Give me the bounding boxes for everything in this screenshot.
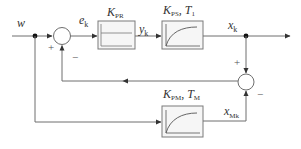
controller-output-label: yk — [138, 22, 148, 38]
model-label: KPM, TM — [162, 87, 201, 102]
summing-junction-2 — [238, 74, 254, 90]
model-output-label: xMk — [223, 104, 240, 120]
feedback-line — [62, 46, 238, 84]
input-label: w — [17, 16, 25, 30]
controller-label: KPR — [106, 5, 124, 20]
sum2-minus-sign: − — [257, 88, 263, 100]
controller-block — [98, 21, 135, 49]
summing-junction-1 — [54, 28, 71, 45]
sum1-plus-sign: + — [48, 41, 54, 53]
sum1-minus-sign: − — [72, 51, 78, 63]
process-output-label: xk — [227, 18, 237, 34]
error-label: ek — [79, 13, 88, 29]
sum2-plus-sign: + — [234, 56, 240, 68]
process-label: KPS, T1 — [162, 3, 196, 18]
process-block — [162, 21, 203, 49]
model-block — [162, 106, 203, 137]
